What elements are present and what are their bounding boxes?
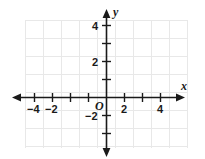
x-axis-label: x	[181, 80, 187, 92]
y-tick-label-pos2: 2	[92, 57, 98, 68]
x-tick-label-pos4: 4	[157, 104, 163, 115]
x-axis-arrow-right	[176, 94, 185, 102]
x-tick-label-pos2: 2	[121, 104, 127, 115]
y-axis	[103, 9, 111, 157]
x-tick-label-neg4: −4	[27, 104, 40, 115]
y-axis-arrow-up	[103, 9, 111, 18]
y-axis-arrow-down	[103, 148, 111, 157]
x-tick-label-neg2: −2	[45, 104, 58, 115]
origin-label: O	[95, 100, 104, 112]
y-axis-label: y	[113, 6, 118, 18]
coordinate-plane: −4 −2 2 4 4 2 −2 O y x	[0, 0, 205, 159]
y-tick-label-pos4: 4	[92, 21, 98, 32]
coordinate-grid-svg	[0, 0, 205, 159]
x-axis-arrow-left	[12, 94, 21, 102]
